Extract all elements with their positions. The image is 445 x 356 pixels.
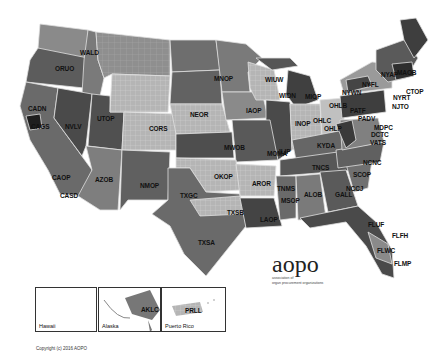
inset-puerto-rico: Puerto Rico — [161, 287, 226, 332]
opo-label-moma: MOMA — [267, 151, 287, 158]
logo-subtitle-2: organ procurement organizations — [272, 281, 323, 286]
opo-label-widn: WIDN — [279, 93, 296, 100]
inset-alaska: Alaska — [98, 287, 161, 332]
opo-label-nyfl: NYFL — [362, 82, 379, 89]
opo-label-flmp: FLMP — [394, 261, 411, 268]
inset-hawaii: Hawaii — [35, 287, 97, 332]
opo-label-wald: WALD — [80, 50, 99, 57]
opo-label-casd: CASD — [60, 193, 78, 200]
opo-label-cags: CAGS — [31, 124, 49, 131]
opo-label-ohlp: OHLP — [324, 126, 342, 133]
opo-label-patf: PATF — [350, 108, 366, 115]
opo-label-nyap: NYAP — [381, 72, 398, 79]
opo-label-txgc: TXGC — [180, 193, 198, 200]
opo-label-txsb: TXSB — [227, 210, 244, 217]
inset-name: Puerto Rico — [165, 323, 194, 329]
opo-label-mwob: MWOB — [224, 145, 245, 152]
opo-label-caop: CAOP — [52, 175, 70, 182]
opo-label-padv: PADV — [358, 116, 375, 123]
opo-label-tnms: TNMS — [277, 186, 295, 193]
opo-label-ohlb: OHLB — [329, 103, 347, 110]
opo-label-txsa: TXSA — [198, 240, 215, 247]
opo-map: WALDORUOCADNCAGSNVLVUTOPCAOPCASDAZOBNMOP… — [0, 0, 445, 356]
opo-label-nyrt: NYRT — [393, 95, 410, 102]
opo-label-ohlc: OHLC — [313, 118, 331, 125]
copyright-text: Copyright (c) 2016 AOPO — [36, 346, 87, 351]
opo-label-nywn: NYWN — [342, 90, 361, 97]
opo-label-ctop: CTOP — [406, 89, 424, 96]
inset-name: Hawaii — [39, 323, 56, 329]
opo-label-alob: ALOB — [304, 192, 322, 199]
aopo-logo: aopo association of organ procurement or… — [272, 252, 323, 285]
opo-label-mnop: MNOP — [214, 76, 233, 83]
opo-label-flfh: FLFH — [392, 233, 408, 240]
opo-label-utop: UTOP — [97, 116, 115, 123]
opo-label-dctc: DCTC — [371, 132, 389, 139]
opo-label-cors: CORS — [149, 126, 167, 133]
opo-label-fluf: FLUF — [368, 222, 384, 229]
opo-label-mdpc: MDPC — [374, 125, 393, 132]
opo-label-gall: GALL — [335, 192, 352, 199]
opo-label-aror: AROR — [252, 181, 271, 188]
opo-label-cadn: CADN — [28, 106, 46, 113]
opo-label-ncnc: NCNC — [363, 160, 381, 167]
opo-label-wiuw: WIUW — [265, 77, 283, 84]
opo-label-flwc: FLWC — [377, 248, 395, 255]
opo-label-oruo: ORUO — [55, 66, 74, 73]
opo-label-neor: NEOR — [190, 112, 208, 119]
opo-label-tncs: TNCS — [312, 165, 329, 172]
opo-label-msop: MSOP — [281, 198, 300, 205]
opo-label-kyda: KYDA — [317, 143, 335, 150]
opo-label-okop: OKOP — [214, 174, 233, 181]
opo-label-scop: SCOP — [353, 172, 371, 179]
opo-label-nmop: NMOP — [140, 183, 159, 190]
opo-label-iaop: IAOP — [246, 108, 262, 115]
opo-label-maob: MAOB — [397, 70, 416, 77]
opo-label-laop: LAOP — [260, 217, 278, 224]
opo-label-nvlv: NVLV — [65, 124, 81, 131]
inset-name: Alaska — [102, 323, 119, 329]
opo-label-njto: NJTO — [392, 104, 409, 111]
opo-label-vats: VATS — [370, 140, 386, 147]
logo-word: aopo — [272, 252, 323, 276]
opo-label-inop: INOP — [295, 121, 311, 128]
opo-label-nccj: NCCJ — [346, 186, 363, 193]
opo-label-miop: MIOP — [305, 94, 321, 101]
opo-label-azob: AZOB — [95, 177, 113, 184]
